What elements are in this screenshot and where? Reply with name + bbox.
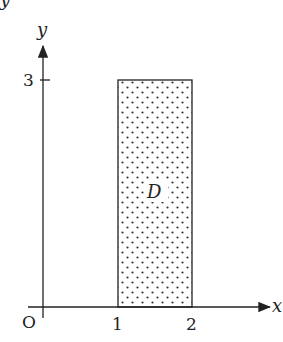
y-axis-label: y (36, 19, 48, 40)
coordinate-diagram: y y x 3 O 1 2 D (0, 0, 283, 342)
clipped-y-label: y (0, 0, 11, 10)
x-tick-label-1: 1 (112, 314, 123, 334)
x-axis-label: x (272, 295, 282, 316)
region-label: D (146, 181, 162, 202)
x-tick-label-2: 2 (186, 314, 197, 334)
y-tick-label-3: 3 (23, 70, 34, 90)
origin-label: O (22, 312, 36, 332)
